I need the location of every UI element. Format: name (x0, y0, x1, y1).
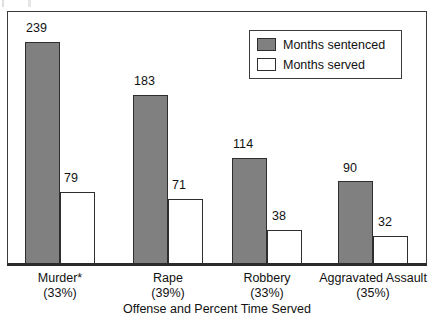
category-name-murder: Murder* (20, 271, 100, 286)
bar-served-murder[interactable] (60, 192, 95, 265)
bar-sentenced-aggravated-assault[interactable] (338, 181, 373, 265)
bar-value-served-robbery: 38 (272, 210, 286, 223)
bar-served-robbery[interactable] (267, 230, 302, 265)
bar-value-served-rape: 71 (172, 179, 186, 192)
category-name-robbery: Robbery (227, 271, 307, 286)
bar-chart: 239 79 183 71 114 38 90 32 Murder* (33%)… (0, 0, 434, 320)
category-percent-murder: (33%) (20, 286, 100, 301)
legend-swatch-icon-served (257, 58, 276, 71)
bar-value-sentenced-robbery: 114 (233, 138, 253, 151)
x-axis-baseline (7, 263, 427, 266)
category-name-rape: Rape (128, 271, 208, 286)
category-label-rape: Rape (39%) (128, 271, 208, 301)
bar-sentenced-robbery[interactable] (232, 158, 267, 265)
legend-label-months-served: Months served (283, 58, 365, 72)
legend: Months sentenced Months served (249, 30, 402, 79)
legend-item-months-sentenced[interactable]: Months sentenced (257, 36, 385, 53)
bar-value-served-aggravated-assault: 32 (378, 216, 392, 229)
category-percent-robbery: (33%) (227, 286, 307, 301)
category-label-aggravated-assault: Aggravated Assault (35%) (312, 271, 434, 301)
bar-value-served-murder: 79 (64, 172, 78, 185)
bar-sentenced-murder[interactable] (25, 42, 60, 265)
category-label-murder: Murder* (33%) (20, 271, 100, 301)
category-name-aggravated-assault: Aggravated Assault (312, 271, 434, 286)
bar-value-sentenced-aggravated-assault: 90 (343, 162, 357, 175)
x-axis-title: Offense and Percent Time Served (0, 302, 434, 317)
bar-sentenced-rape[interactable] (133, 95, 168, 265)
bar-value-sentenced-murder: 239 (26, 22, 47, 35)
category-percent-aggravated-assault: (35%) (312, 286, 434, 301)
bar-served-rape[interactable] (168, 199, 203, 265)
legend-label-months-sentenced: Months sentenced (283, 38, 385, 52)
bar-value-sentenced-rape: 183 (134, 75, 155, 88)
category-label-robbery: Robbery (33%) (227, 271, 307, 301)
legend-swatch-icon-sentenced (257, 38, 276, 51)
legend-item-months-served[interactable]: Months served (257, 56, 365, 73)
bar-served-aggravated-assault[interactable] (373, 236, 408, 265)
category-percent-rape: (39%) (128, 286, 208, 301)
